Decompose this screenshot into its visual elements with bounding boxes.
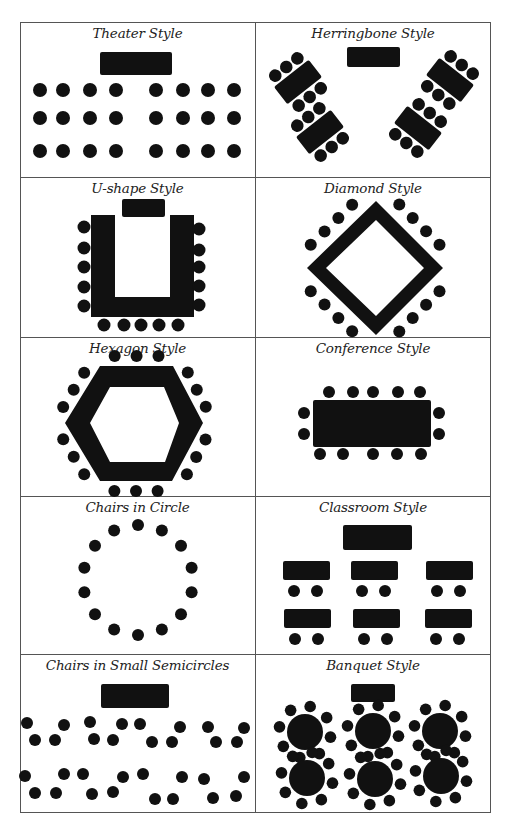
chair	[346, 199, 358, 211]
round-table	[422, 713, 458, 749]
chair	[167, 793, 179, 805]
round-table-group	[344, 748, 407, 811]
chair	[407, 312, 419, 324]
chair	[149, 793, 161, 805]
chair	[312, 633, 324, 645]
chair	[58, 768, 70, 780]
chair	[409, 720, 421, 732]
rect-table-group	[417, 47, 483, 114]
diamond-table	[307, 201, 443, 335]
round-table	[423, 758, 459, 794]
chair	[321, 712, 333, 724]
head-table	[122, 199, 165, 217]
chair	[355, 752, 367, 764]
chair	[342, 720, 354, 732]
chair	[78, 261, 91, 274]
chair	[202, 721, 214, 733]
chair	[433, 239, 445, 251]
chair	[117, 771, 129, 783]
chair	[296, 798, 308, 810]
chair	[78, 300, 91, 313]
chair	[389, 711, 401, 723]
chair	[344, 768, 356, 780]
chair	[172, 319, 185, 332]
chair	[323, 758, 335, 770]
chair	[193, 223, 206, 236]
chair	[56, 83, 70, 97]
chair	[200, 401, 212, 413]
chair	[84, 716, 96, 728]
chair	[414, 785, 426, 797]
chair	[109, 144, 123, 158]
chair	[156, 524, 168, 536]
chair	[450, 792, 462, 804]
conference-table	[313, 400, 431, 447]
chair	[393, 325, 405, 337]
chair	[356, 585, 368, 597]
chair	[132, 519, 144, 531]
chair	[391, 448, 403, 460]
chair	[413, 740, 425, 752]
chair	[57, 401, 69, 413]
chair	[108, 485, 120, 497]
chair	[149, 144, 163, 158]
desk	[283, 561, 330, 580]
chair	[149, 111, 163, 125]
chair	[116, 718, 128, 730]
chair	[227, 83, 241, 97]
chair	[305, 285, 317, 297]
chair	[152, 485, 164, 497]
chair	[49, 734, 61, 746]
chair	[78, 221, 91, 234]
chair	[132, 629, 144, 641]
chair	[332, 312, 344, 324]
chair	[420, 225, 432, 237]
head-table	[347, 47, 400, 67]
chair	[78, 367, 90, 379]
chair	[152, 350, 164, 362]
chair	[379, 585, 391, 597]
chair	[193, 261, 206, 274]
chair	[393, 199, 405, 211]
chair	[200, 434, 212, 446]
chair	[433, 407, 445, 419]
chair	[135, 319, 148, 332]
chair	[98, 319, 111, 332]
chair	[304, 701, 316, 713]
round-table	[289, 760, 325, 796]
chair	[367, 448, 379, 460]
chair	[186, 586, 198, 598]
chair	[453, 633, 465, 645]
rect-table-group	[385, 95, 451, 162]
chair	[421, 749, 433, 761]
chair	[392, 386, 404, 398]
chair	[176, 83, 190, 97]
chair	[88, 733, 100, 745]
chair	[298, 407, 310, 419]
chair	[440, 745, 452, 757]
chair	[353, 704, 365, 716]
chair	[78, 468, 90, 480]
round-table-group	[410, 745, 473, 808]
chair	[77, 768, 89, 780]
desk	[351, 561, 398, 580]
chair	[439, 700, 451, 712]
chair	[33, 83, 47, 97]
head-table	[343, 525, 412, 550]
chair	[78, 242, 91, 255]
round-table	[287, 714, 323, 750]
chair	[415, 448, 427, 460]
chair	[374, 748, 386, 760]
chair	[420, 299, 432, 311]
chair	[78, 586, 90, 598]
chair	[191, 384, 203, 396]
chair	[238, 771, 250, 783]
chair	[186, 562, 198, 574]
chair	[332, 212, 344, 224]
chair	[33, 144, 47, 158]
chair	[21, 717, 33, 729]
chair	[285, 705, 297, 717]
chair	[108, 524, 120, 536]
chair	[287, 751, 299, 763]
chair	[33, 111, 47, 125]
